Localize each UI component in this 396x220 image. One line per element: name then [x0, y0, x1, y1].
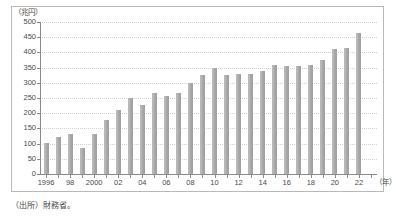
x-axis-tick-label: 08 [186, 178, 194, 188]
y-axis-tick-label: 50 [28, 155, 36, 163]
bar [152, 93, 157, 174]
bar [44, 143, 49, 174]
y-axis-tick-mark [37, 144, 40, 145]
y-axis-tick-mark [37, 83, 40, 84]
x-axis-tick-label: 06 [162, 178, 170, 188]
bar [68, 134, 73, 174]
bar [176, 93, 181, 174]
y-axis-tick-mark [37, 22, 40, 23]
bar [308, 65, 313, 174]
bar [320, 60, 325, 174]
x-axis-tick-labels: （年） 19969820000204060810121416182022 [40, 178, 377, 190]
bar [224, 75, 229, 174]
y-axis-tick-label: 200 [23, 109, 36, 117]
y-axis-tick-label: 100 [23, 140, 36, 148]
y-axis-tick-mark [37, 68, 40, 69]
source-note: （出所）財務省。 [11, 200, 75, 211]
y-axis-unit-label: （兆円） [14, 8, 42, 17]
bar [116, 110, 121, 174]
x-axis-tick-label: 04 [138, 178, 146, 188]
x-axis-tick-label: 98 [66, 178, 74, 188]
y-axis-tick-label: 300 [23, 79, 36, 87]
y-axis-tick-mark [37, 98, 40, 99]
plot-area [40, 22, 377, 174]
bar [200, 75, 205, 174]
x-axis-tick-label: 16 [283, 178, 291, 188]
y-axis-tick-label: 350 [23, 64, 36, 72]
y-axis-tick-mark [37, 37, 40, 38]
y-axis-tick-label: 400 [23, 48, 36, 56]
y-axis-tick-label: 150 [23, 124, 36, 132]
bar [248, 74, 253, 174]
y-axis-tick-mark [37, 159, 40, 160]
y-axis-tick-labels: 050100150200250300350400450500 [10, 22, 36, 174]
y-axis-tick-label: 250 [23, 94, 36, 102]
x-axis-tick-label: 14 [258, 178, 266, 188]
y-axis-tick-mark [37, 52, 40, 53]
x-axis-tick-label: 2000 [86, 178, 103, 188]
x-axis-tick-label: 1996 [38, 178, 55, 188]
bar [260, 71, 265, 174]
bar [356, 33, 361, 174]
bar [344, 48, 349, 174]
y-axis-tick-mark [37, 128, 40, 129]
bar [236, 74, 241, 174]
bar [128, 98, 133, 174]
x-axis-tick-label: 20 [331, 178, 339, 188]
bar [212, 68, 217, 174]
x-axis-tick-label: 18 [307, 178, 315, 188]
x-axis-tick-label: 10 [210, 178, 218, 188]
x-axis-tick-label: 02 [114, 178, 122, 188]
bar [104, 120, 109, 174]
bar [164, 96, 169, 174]
y-axis-tick-label: 0 [32, 170, 36, 178]
x-axis-tick-label: 22 [355, 178, 363, 188]
bars-layer [40, 22, 377, 174]
bar [56, 137, 61, 174]
bar [80, 148, 85, 174]
y-axis-spine [40, 22, 41, 174]
x-axis-tick-label: 12 [234, 178, 242, 188]
bar [272, 65, 277, 174]
bar [188, 83, 193, 174]
bar [140, 105, 145, 174]
y-axis-tick-label: 450 [23, 33, 36, 41]
y-axis-tick-label: 500 [23, 18, 36, 26]
y-axis-tick-mark [37, 113, 40, 114]
bar [332, 49, 337, 174]
x-axis-unit-label: （年） [375, 178, 396, 188]
bar [296, 66, 301, 174]
bar [92, 134, 97, 174]
bar [284, 66, 289, 174]
